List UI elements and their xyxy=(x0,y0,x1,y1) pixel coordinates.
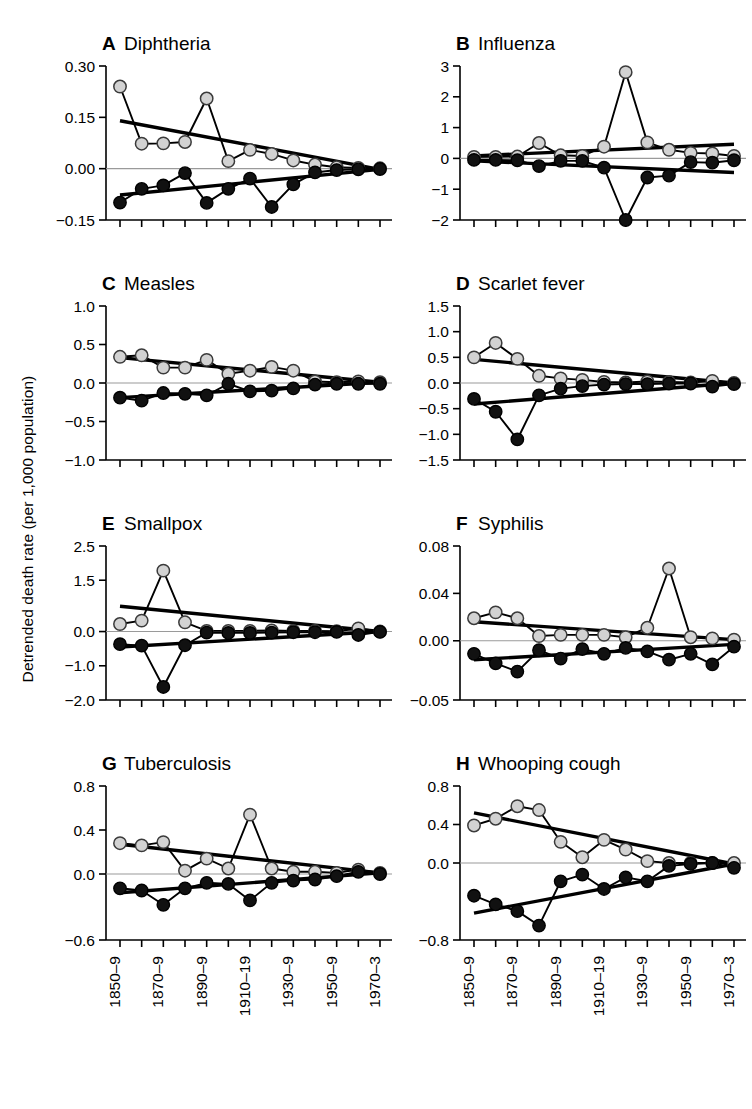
data-point-upper xyxy=(200,92,212,104)
data-point-upper xyxy=(114,351,126,363)
data-point-lower xyxy=(114,638,126,650)
data-point-lower xyxy=(265,877,277,889)
data-point-upper xyxy=(135,349,147,361)
panel-f: FSyphilis0.080.040.00−0.05 xyxy=(398,498,752,738)
data-point-lower xyxy=(157,899,169,911)
data-point-upper xyxy=(663,144,675,156)
data-point-upper xyxy=(157,137,169,149)
data-point-lower xyxy=(533,160,545,172)
data-point-lower xyxy=(287,626,299,638)
data-point-lower xyxy=(244,627,256,639)
x-tick-label: 1890–9 xyxy=(193,956,210,1008)
data-point-lower xyxy=(706,658,718,670)
data-point-lower xyxy=(641,875,653,887)
data-point-lower xyxy=(287,178,299,190)
data-point-lower xyxy=(114,196,126,208)
data-point-lower xyxy=(576,380,588,392)
data-point-lower xyxy=(576,868,588,880)
panel-title: Measles xyxy=(124,273,195,294)
data-point-lower xyxy=(598,883,610,895)
x-tick-label: 1850–9 xyxy=(460,956,477,1008)
y-tick-label: 0.5 xyxy=(427,349,449,366)
y-tick-label: 0.0 xyxy=(427,375,449,392)
data-point-upper xyxy=(157,361,169,373)
panel-letter: E xyxy=(102,513,115,534)
data-point-lower xyxy=(641,171,653,183)
data-point-lower xyxy=(265,385,277,397)
data-point-lower xyxy=(352,629,364,641)
data-point-upper xyxy=(468,819,480,831)
y-tick-label: 0.8 xyxy=(427,778,449,795)
data-point-lower xyxy=(554,155,566,167)
data-point-lower xyxy=(619,378,631,390)
data-point-upper xyxy=(576,851,588,863)
data-point-lower xyxy=(554,382,566,394)
data-point-upper xyxy=(663,562,675,574)
data-point-lower xyxy=(244,894,256,906)
data-point-upper xyxy=(554,836,566,848)
data-point-lower xyxy=(468,154,480,166)
x-tick-label: 1970–3 xyxy=(366,956,383,1008)
data-point-lower xyxy=(706,157,718,169)
y-tick-label: 1.0 xyxy=(427,323,449,340)
data-point-lower xyxy=(114,391,126,403)
data-point-lower xyxy=(619,871,631,883)
y-tick-label: 1.5 xyxy=(427,298,449,315)
y-tick-label: 0.00 xyxy=(65,160,96,177)
data-point-upper xyxy=(114,837,126,849)
data-point-lower xyxy=(489,898,501,910)
data-point-upper xyxy=(468,612,480,624)
data-point-upper xyxy=(641,136,653,148)
y-tick-label: −0.8 xyxy=(418,932,449,949)
y-tick-label: 0.0 xyxy=(427,855,449,872)
data-point-lower xyxy=(728,640,740,652)
data-point-lower xyxy=(330,626,342,638)
y-tick-label: 2 xyxy=(440,88,449,105)
data-point-lower xyxy=(265,201,277,213)
y-tick-label: 1.5 xyxy=(73,572,95,589)
data-point-lower xyxy=(533,644,545,656)
y-axis-title: Detrended death rate (per 1,000 populati… xyxy=(19,239,37,819)
panel-a: ADiphtheria0.300.150.00−0.15 xyxy=(44,18,398,258)
y-tick-label: −1 xyxy=(431,181,449,198)
data-point-lower xyxy=(619,642,631,654)
data-point-upper xyxy=(265,862,277,874)
data-point-upper xyxy=(265,148,277,160)
y-tick-label: −0.5 xyxy=(418,400,449,417)
data-point-lower xyxy=(489,154,501,166)
x-tick-label: 1870–9 xyxy=(149,956,166,1008)
data-point-upper xyxy=(489,337,501,349)
panel-title: Smallpox xyxy=(124,513,203,534)
data-point-lower xyxy=(684,858,696,870)
data-point-upper xyxy=(179,136,191,148)
panel-c: CMeasles1.00.50.0−0.5−1.0 xyxy=(44,258,398,498)
data-point-upper xyxy=(641,855,653,867)
panel-letter: D xyxy=(456,273,470,294)
data-point-upper xyxy=(619,843,631,855)
x-tick-label: 1910–19 xyxy=(590,956,607,1016)
y-tick-label: 2.5 xyxy=(73,538,95,555)
data-point-lower xyxy=(179,167,191,179)
data-point-upper xyxy=(641,622,653,634)
data-point-lower xyxy=(468,648,480,660)
data-point-upper xyxy=(489,606,501,618)
data-point-lower xyxy=(244,385,256,397)
data-point-lower xyxy=(352,378,364,390)
panel-letter: G xyxy=(102,753,117,774)
data-point-lower xyxy=(533,389,545,401)
data-point-lower xyxy=(511,154,523,166)
data-point-lower xyxy=(200,389,212,401)
panel-g: GTuberculosis0.80.40.0−0.61850–91870–918… xyxy=(44,738,398,1103)
panel-b: BInfluenza3210−1−2 xyxy=(398,18,752,258)
data-point-upper xyxy=(706,632,718,644)
data-point-upper xyxy=(265,361,277,373)
y-axis-title-container: Detrended death rate (per 1,000 populati… xyxy=(0,0,44,1109)
data-point-lower xyxy=(706,380,718,392)
data-point-lower xyxy=(330,870,342,882)
data-point-lower xyxy=(374,868,386,880)
x-tick-label: 1970–3 xyxy=(720,956,737,1008)
panel-title: Syphilis xyxy=(478,513,543,534)
panel-title: Tuberculosis xyxy=(124,753,231,774)
data-point-lower xyxy=(663,654,675,666)
data-point-lower xyxy=(684,156,696,168)
